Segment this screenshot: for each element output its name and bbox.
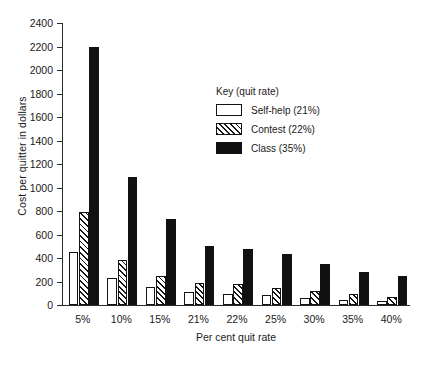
bar-contest bbox=[195, 283, 205, 305]
y-tick-label: 1600 bbox=[30, 111, 53, 123]
legend-label: Contest (22%) bbox=[251, 124, 315, 135]
bar-class bbox=[398, 276, 408, 305]
x-tick-label: 15% bbox=[149, 313, 170, 325]
y-tick-label: 2400 bbox=[30, 17, 53, 29]
bar-selfhelp bbox=[223, 294, 233, 305]
bar-contest bbox=[387, 297, 397, 305]
y-tick-label: 2200 bbox=[30, 41, 53, 53]
legend-label: Self-help (21%) bbox=[251, 105, 320, 116]
bar-group bbox=[339, 23, 369, 305]
bar-class bbox=[205, 246, 215, 305]
legend: Key (quit rate) Self-help (21%)Contest (… bbox=[216, 86, 320, 160]
y-tick-mark bbox=[57, 47, 62, 48]
y-tick-label: 1000 bbox=[30, 182, 53, 194]
legend-title: Key (quit rate) bbox=[216, 86, 320, 97]
y-tick-mark bbox=[57, 141, 62, 142]
bar-selfhelp bbox=[339, 300, 349, 305]
y-tick-mark bbox=[57, 23, 62, 24]
x-tick-label: 30% bbox=[304, 313, 325, 325]
legend-entry: Contest (22%) bbox=[216, 122, 320, 136]
bar-class bbox=[89, 47, 99, 306]
y-tick-mark bbox=[57, 94, 62, 95]
x-axis-title: Per cent quit rate bbox=[62, 331, 410, 343]
legend-swatch-contest bbox=[216, 123, 242, 135]
bar-group bbox=[69, 23, 99, 305]
bar-group bbox=[184, 23, 214, 305]
bar-selfhelp bbox=[69, 252, 79, 305]
x-tick-label: 25% bbox=[265, 313, 286, 325]
bar-class bbox=[166, 219, 176, 305]
legend-entry: Self-help (21%) bbox=[216, 103, 320, 117]
bar-contest bbox=[79, 212, 89, 305]
bar-group bbox=[107, 23, 137, 305]
bar-class bbox=[359, 272, 369, 305]
y-tick-mark bbox=[57, 282, 62, 283]
bar-selfhelp bbox=[377, 301, 387, 305]
x-tick-label: 10% bbox=[111, 313, 132, 325]
figure-bar-chart: Cost per quitter in dollars 020040060080… bbox=[0, 0, 434, 368]
bar-contest bbox=[349, 294, 359, 305]
bar-contest bbox=[310, 291, 320, 305]
legend-label: Class (35%) bbox=[251, 143, 305, 154]
bar-selfhelp bbox=[107, 278, 117, 305]
x-axis-line bbox=[62, 305, 410, 306]
bar-group bbox=[300, 23, 330, 305]
bar-class bbox=[320, 264, 330, 305]
bar-class bbox=[282, 254, 292, 305]
legend-entries: Self-help (21%)Contest (22%)Class (35%) bbox=[216, 103, 320, 155]
legend-swatch-class bbox=[216, 142, 242, 154]
bar-selfhelp bbox=[146, 287, 156, 305]
y-tick-mark bbox=[57, 117, 62, 118]
x-tick-label: 22% bbox=[226, 313, 247, 325]
bar-group bbox=[223, 23, 253, 305]
y-tick-label: 1200 bbox=[30, 158, 53, 170]
x-tick-label: 35% bbox=[342, 313, 363, 325]
y-tick-label: 1800 bbox=[30, 88, 53, 100]
y-tick-label: 0 bbox=[47, 299, 53, 311]
y-tick-mark bbox=[57, 188, 62, 189]
y-tick-label: 1400 bbox=[30, 135, 53, 147]
bar-class bbox=[128, 177, 138, 305]
bar-selfhelp bbox=[300, 298, 310, 305]
bar-group bbox=[146, 23, 176, 305]
bar-selfhelp bbox=[262, 295, 272, 305]
bar-contest bbox=[233, 284, 243, 305]
bar-group bbox=[262, 23, 292, 305]
bar-selfhelp bbox=[184, 292, 194, 305]
y-tick-label: 600 bbox=[35, 229, 53, 241]
y-tick-label: 400 bbox=[35, 252, 53, 264]
x-tick-label: 21% bbox=[188, 313, 209, 325]
bar-class bbox=[243, 249, 253, 305]
y-tick-mark bbox=[57, 258, 62, 259]
y-tick-label: 2000 bbox=[30, 64, 53, 76]
y-tick-label: 800 bbox=[35, 205, 53, 217]
legend-entry: Class (35%) bbox=[216, 141, 320, 155]
y-tick-label: 200 bbox=[35, 276, 53, 288]
bar-group bbox=[377, 23, 407, 305]
y-tick-mark bbox=[57, 305, 62, 306]
bar-contest bbox=[156, 276, 166, 305]
legend-swatch-selfhelp bbox=[216, 104, 242, 116]
y-tick-mark bbox=[57, 164, 62, 165]
x-tick-label: 5% bbox=[75, 313, 90, 325]
bar-contest bbox=[272, 288, 282, 305]
y-tick-mark bbox=[57, 211, 62, 212]
y-axis-title: Cost per quitter in dollars bbox=[16, 56, 28, 256]
x-tick-label: 40% bbox=[381, 313, 402, 325]
y-tick-mark bbox=[57, 70, 62, 71]
bar-series-container bbox=[63, 23, 410, 305]
plot-area: 0200400600800100012001400160018002000220… bbox=[62, 23, 410, 305]
bar-contest bbox=[118, 260, 128, 305]
y-tick-mark bbox=[57, 235, 62, 236]
